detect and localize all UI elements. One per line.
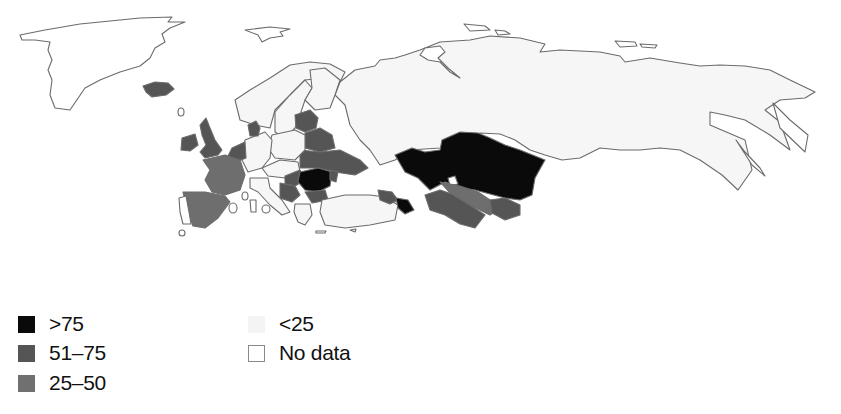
region-sardinia (250, 200, 256, 212)
region-arctic-island-2 (495, 30, 510, 35)
region-canary (179, 230, 185, 236)
region-serbia (280, 183, 300, 202)
region-balearic (229, 203, 237, 213)
region-sicily (262, 205, 270, 213)
legend-swatch-51-75 (18, 345, 35, 362)
legend-item-51-75: 51–75 (18, 340, 106, 366)
region-romania (298, 168, 332, 192)
region-arctic-island-4 (640, 44, 657, 48)
region-svalbard (245, 27, 290, 42)
region-greece (294, 204, 312, 225)
region-ireland (181, 134, 198, 151)
legend-label-lt25: <25 (279, 312, 314, 336)
legend-item-gt75: >75 (18, 311, 84, 337)
region-crete (316, 231, 326, 233)
region-arctic-island-1 (464, 24, 490, 31)
legend-item-25-50: 25–50 (18, 370, 106, 396)
legend-label-gt75: >75 (49, 312, 84, 336)
region-moldova (330, 170, 338, 182)
region-iceland (143, 82, 174, 97)
region-kyrgyzstan-tajikistan (490, 198, 520, 220)
region-united-kingdom (200, 118, 222, 158)
region-corsica (242, 192, 248, 200)
region-faroe (178, 108, 184, 116)
region-baltic-states (295, 110, 318, 132)
legend-label-no-data: No data (279, 341, 350, 365)
legend-item-no-data: No data (248, 340, 350, 366)
legend-item-lt25: <25 (248, 311, 314, 337)
region-poland (268, 130, 305, 160)
legend-label-51-75: 51–75 (49, 341, 106, 365)
region-france (203, 155, 245, 195)
choropleth-map (0, 0, 841, 280)
region-arctic-island-3 (615, 41, 637, 47)
region-azerbaijan (396, 198, 414, 214)
legend-swatch-gt75 (18, 316, 35, 333)
map-legend: >75 51–75 25–50 <25 No data (0, 305, 841, 414)
legend-swatch-no-data (248, 345, 265, 362)
legend-label-25-50: 25–50 (49, 371, 106, 395)
region-belarus (305, 128, 335, 152)
region-cyprus (350, 229, 356, 232)
legend-swatch-lt25 (248, 316, 265, 333)
legend-swatch-25-50 (18, 375, 35, 392)
